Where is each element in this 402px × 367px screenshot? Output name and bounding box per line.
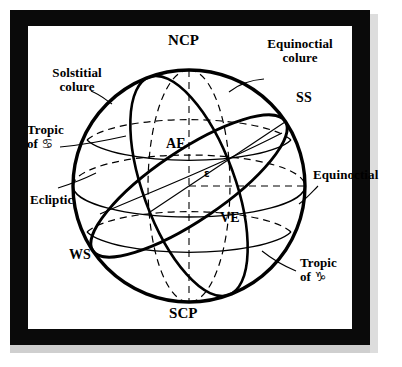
label-ws: WS <box>69 248 91 263</box>
label-scp: SCP <box>169 306 198 322</box>
label-tropic-of-capricorn: Tropic of ♑ <box>300 256 337 284</box>
ecliptic-back-hint-arc <box>100 133 282 214</box>
label-equinoctial: Equinoctial <box>313 168 378 182</box>
label-ncp: NCP <box>168 33 199 49</box>
label-ecliptic: Ecliptic <box>30 193 73 207</box>
solstitial-colure-line-1: Solstitial <box>52 65 101 80</box>
label-tropic-of-cancer: Tropic of ♋ <box>27 123 64 151</box>
label-ae: AE <box>166 137 186 152</box>
equinoctial-colure-line-2: colure <box>282 50 317 65</box>
label-equinoctial-colure: Equinoctial colure <box>257 37 343 65</box>
label-ss: SS <box>296 91 312 106</box>
tropic-cancer-line-2-prefix: of <box>27 136 41 151</box>
leader-ecliptic <box>58 173 96 188</box>
equinoctial-colure-left-arc <box>148 70 189 302</box>
label-solstitial-colure: Solstitial colure <box>37 66 117 94</box>
tropic-capricorn-line-1: Tropic <box>300 255 337 270</box>
capricorn-zodiac-symbol-icon: ♑ <box>314 269 326 284</box>
leader-tropic-cancer <box>60 136 126 147</box>
celestial-sphere-figure: NCP SCP SS WS AE VE ε Solstitial colure … <box>0 0 402 367</box>
label-ve: VE <box>220 211 240 226</box>
tropic-cancer-line-1: Tropic <box>27 122 64 137</box>
equinoctial-colure-line-1: Equinoctial <box>267 36 332 51</box>
tropic-capricorn-line-2-prefix: of <box>300 269 314 284</box>
leader-equinoctial <box>299 186 318 204</box>
solstitial-colure-line-2: colure <box>59 79 94 94</box>
label-epsilon-obliquity: ε <box>204 169 210 180</box>
cancer-zodiac-symbol-icon: ♋ <box>41 136 53 151</box>
